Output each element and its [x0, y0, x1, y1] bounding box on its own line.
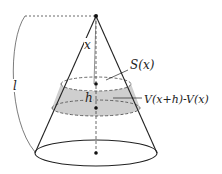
- upper-section-center: [94, 82, 98, 86]
- cone-diagram: x h S(x) V(x+h)-V(x) l: [0, 0, 222, 174]
- apex-point: [94, 14, 98, 18]
- cone-left-side: [35, 16, 96, 153]
- label-x: x: [84, 38, 91, 52]
- label-l: l: [13, 79, 17, 93]
- lower-section-center: [94, 106, 98, 110]
- label-v: V(x+h)-V(x): [144, 93, 209, 106]
- label-s: S(x): [130, 58, 155, 72]
- cone-right-side: [96, 16, 157, 153]
- base-center: [94, 151, 98, 155]
- label-h: h: [85, 91, 93, 105]
